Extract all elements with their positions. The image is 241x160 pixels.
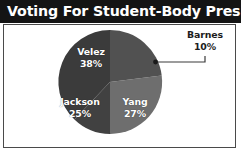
slice-label-yang-pct: 27% bbox=[124, 108, 146, 119]
slice-label-barnes: Barnes 10% bbox=[178, 29, 232, 53]
slice-label-jackson: Jackson 25% bbox=[52, 96, 108, 119]
callout-leader-line bbox=[156, 56, 205, 62]
pie-graphic bbox=[0, 0, 241, 160]
slice-label-barnes-name: Barnes bbox=[187, 29, 223, 40]
slice-label-yang: Yang 27% bbox=[112, 96, 158, 119]
slice-label-jackson-name: Jackson bbox=[60, 96, 100, 107]
slice-label-velez-name: Velez bbox=[77, 46, 105, 57]
slice-label-velez: Velez 38% bbox=[63, 46, 119, 69]
slice-label-jackson-pct: 25% bbox=[69, 108, 91, 119]
slice-label-barnes-pct: 10% bbox=[194, 41, 216, 52]
callout-arrow-dot bbox=[153, 60, 158, 65]
slice-label-velez-pct: 38% bbox=[80, 58, 102, 69]
pie-chart-figure: Voting For Student-Body President Velez … bbox=[0, 0, 241, 160]
slice-label-yang-name: Yang bbox=[122, 96, 147, 107]
